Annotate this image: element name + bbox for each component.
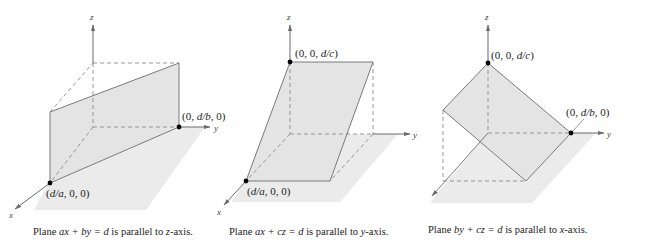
x-axis-label: x bbox=[8, 210, 13, 220]
point-label-d-over-b: (0, d/b, 0) bbox=[182, 110, 226, 123]
intercept-point-y bbox=[177, 125, 182, 130]
y-axis-label: y bbox=[213, 123, 218, 133]
point-label-d-over-b: (0, d/b, 0) bbox=[566, 106, 610, 119]
intercept-point-x bbox=[48, 181, 53, 186]
planes-figure: z y x (d/a, 0, 0) (0, d/b, 0) Plane ax +… bbox=[0, 0, 647, 244]
z-axis-label: z bbox=[286, 12, 291, 22]
z-axis-label: z bbox=[484, 12, 489, 22]
y-axis-label: y bbox=[412, 130, 417, 140]
diagram-plane-parallel-y-axis: z y x (0, 0, d/c) (d/a, 0, 0) Plane ax +… bbox=[216, 12, 417, 237]
intercept-point-x bbox=[244, 179, 249, 184]
z-axis-label: z bbox=[89, 12, 94, 22]
point-label-d-over-a: (d/a, 0, 0) bbox=[46, 187, 90, 200]
caption: Plane by + cz = d is parallel to x-axis. bbox=[428, 224, 587, 235]
x-axis-label: x bbox=[216, 207, 221, 217]
intercept-point-z bbox=[288, 60, 293, 65]
label-leader-line bbox=[571, 119, 584, 133]
point-label-d-over-c: (0, 0, d/c) bbox=[491, 49, 534, 62]
caption: Plane ax + cz = d is parallel to y-axis. bbox=[229, 226, 388, 237]
point-label-d-over-c: (0, 0, d/c) bbox=[295, 47, 338, 60]
point-label-d-over-a: (d/a, 0, 0) bbox=[247, 185, 291, 198]
diagram-plane-parallel-x-axis: z y (0, 0, d/c) (0, d/b, 0) Plane by + c… bbox=[428, 12, 611, 235]
diagram-plane-parallel-z-axis: z y x (d/a, 0, 0) (0, d/b, 0) Plane ax +… bbox=[8, 12, 226, 237]
intercept-point-y bbox=[569, 131, 574, 136]
y-axis-label: y bbox=[606, 129, 611, 139]
caption: Plane ax + by = d is parallel to z-axis. bbox=[33, 226, 193, 237]
intercept-point-z bbox=[486, 61, 491, 66]
